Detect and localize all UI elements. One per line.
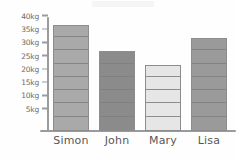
x-axis-label: John <box>94 134 140 147</box>
bar-segment-line <box>100 63 134 64</box>
y-axis-tick-label: 30kg <box>21 38 39 47</box>
bar-segment-line <box>146 116 180 117</box>
bar-segment-line <box>192 89 226 90</box>
x-axis-label: Lisa <box>186 134 232 147</box>
bar-segment-line <box>54 116 88 117</box>
y-axis-tick-label: 10kg <box>21 91 39 100</box>
bar-segment-line <box>54 36 88 37</box>
bar-segment-line <box>146 76 180 77</box>
x-axis-label: Mary <box>140 134 186 147</box>
plot-area: 5kg10kg15kg20kg25kg30kg35kg40kg <box>48 18 232 131</box>
y-axis-tick-label: 40kg <box>21 11 39 20</box>
bar-slot <box>191 18 227 131</box>
x-axis-labels: SimonJohnMaryLisa <box>48 134 232 156</box>
bar-segment-line <box>192 63 226 64</box>
bar-segment-line <box>146 102 180 103</box>
bar-segment-line <box>192 116 226 117</box>
bar-segment-line <box>146 89 180 90</box>
y-axis-tick: 35kg <box>21 24 48 33</box>
y-axis-tick-label: 35kg <box>21 24 39 33</box>
bar[interactable] <box>53 25 89 131</box>
bar-segment-line <box>100 76 134 77</box>
bar-segment-line <box>192 49 226 50</box>
y-axis-tick: 15kg <box>21 78 48 87</box>
y-axis-tick: 30kg <box>21 38 48 47</box>
y-axis-tick-mark <box>42 15 48 17</box>
bar-segment-line <box>100 116 134 117</box>
y-axis-tick-label: 5kg <box>26 104 39 113</box>
y-axis-tick: 25kg <box>21 51 48 60</box>
bar-segment-line <box>54 102 88 103</box>
bar-segment-line <box>192 102 226 103</box>
bar-segment-line <box>192 76 226 77</box>
bar-segment-line <box>100 89 134 90</box>
y-axis-tick-label: 25kg <box>21 51 39 60</box>
x-axis-label: Simon <box>48 134 94 147</box>
bar-segment-line <box>54 76 88 77</box>
bar-segment-line <box>54 89 88 90</box>
bar-slot <box>53 18 89 131</box>
bar[interactable] <box>191 38 227 131</box>
bar-segment-line <box>100 102 134 103</box>
scan-artifact <box>92 1 154 7</box>
y-axis-tick: 40kg <box>21 11 48 20</box>
bar-slot <box>145 18 181 131</box>
bar-segment-line <box>54 63 88 64</box>
bar[interactable] <box>99 51 135 131</box>
y-axis-tick-label: 20kg <box>21 64 39 73</box>
bar[interactable] <box>145 65 181 131</box>
bar-slot <box>99 18 135 131</box>
bar-segment-line <box>54 49 88 50</box>
bar-group <box>48 18 232 131</box>
y-axis-tick: 10kg <box>21 91 48 100</box>
y-axis-tick: 5kg <box>26 104 48 113</box>
y-axis-tick-label: 15kg <box>21 78 39 87</box>
y-axis-tick: 20kg <box>21 64 48 73</box>
bar-chart: 5kg10kg15kg20kg25kg30kg35kg40kg SimonJoh… <box>0 0 236 160</box>
